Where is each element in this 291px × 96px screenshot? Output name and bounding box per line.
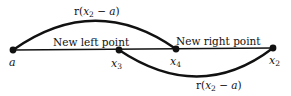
point-x3-label: x3: [111, 58, 122, 71]
upper-arc-label-suffix: ): [116, 5, 120, 17]
upper-arc-label: r(x2 − a): [74, 6, 120, 19]
point-x2-label: x2: [269, 55, 280, 68]
golden-section-diagram: r(x2 − a) New left point New right point…: [0, 0, 291, 96]
lower-arc: [119, 48, 273, 77]
point-a-label: a: [9, 57, 16, 68]
lower-arc-label-prefix: r(: [196, 79, 205, 91]
point-x4-label: x4: [170, 56, 181, 69]
lower-arc-label: r(x2 − a): [196, 80, 242, 93]
baseline-segment: [13, 48, 273, 50]
lower-arc-label-minus: −: [216, 79, 231, 91]
point-x2-subscript: 2: [275, 59, 280, 68]
lower-arc-label-suffix: ): [238, 79, 242, 91]
new-left-point-label: New left point: [53, 37, 129, 48]
point-a-dot: [10, 47, 17, 54]
point-x4-subscript: 4: [176, 60, 181, 69]
new-right-point-label: New right point: [176, 36, 261, 47]
upper-arc-label-prefix: r(: [74, 5, 83, 17]
upper-arc-label-minus: −: [94, 5, 109, 17]
point-x2-dot: [270, 45, 277, 52]
point-x3-subscript: 3: [117, 62, 122, 71]
diagram-canvas: [0, 0, 291, 96]
point-a-label-text: a: [9, 56, 16, 69]
